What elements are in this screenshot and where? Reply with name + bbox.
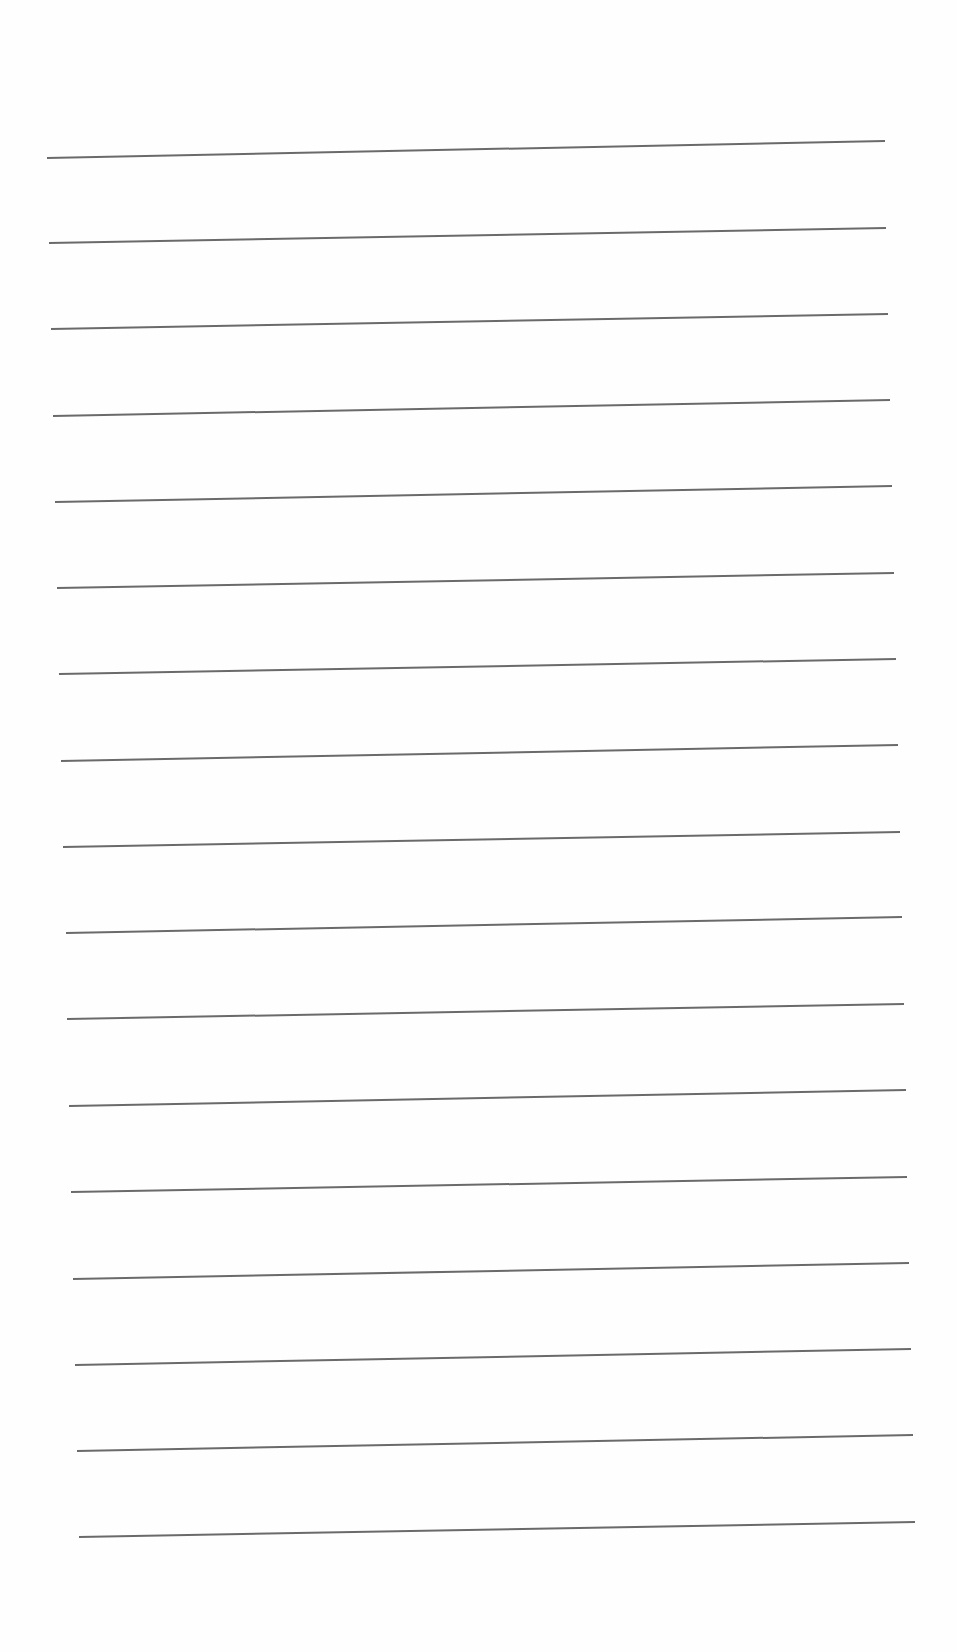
ruled-line-7 xyxy=(59,659,896,674)
ruled-line-2 xyxy=(49,228,886,243)
ruled-line-12 xyxy=(69,1090,906,1106)
ruled-page xyxy=(0,0,957,1652)
ruled-line-6 xyxy=(57,573,894,588)
ruled-line-5 xyxy=(55,486,892,502)
ruled-line-16 xyxy=(77,1435,913,1451)
ruled-line-3 xyxy=(51,314,888,329)
ruled-line-14 xyxy=(73,1263,909,1279)
ruled-line-17 xyxy=(79,1522,915,1537)
ruled-line-10 xyxy=(66,917,902,933)
ruled-line-4 xyxy=(53,400,890,416)
ruled-lines xyxy=(0,0,957,1652)
ruled-line-8 xyxy=(61,745,898,761)
ruled-line-13 xyxy=(71,1177,907,1192)
ruled-line-9 xyxy=(63,832,900,847)
ruled-line-15 xyxy=(75,1349,911,1365)
ruled-line-1 xyxy=(47,141,885,158)
ruled-line-11 xyxy=(67,1004,904,1019)
